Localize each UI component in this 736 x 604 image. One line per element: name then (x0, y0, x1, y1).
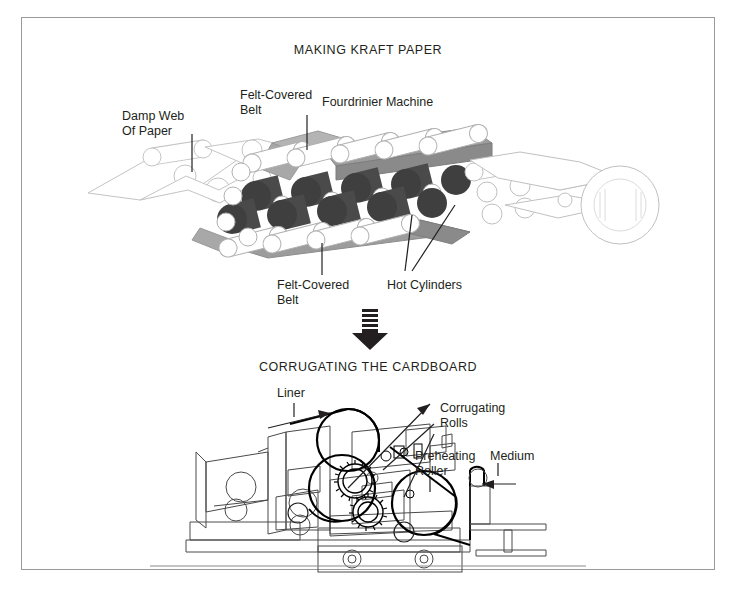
machine-frame (186, 424, 470, 552)
label-medium: Medium (490, 449, 534, 463)
take-up-roll (581, 166, 659, 244)
label-corrugating-line2: Rolls (440, 416, 468, 430)
corrugating-rolls (309, 409, 379, 521)
kraft-paper-machine-illustration: Damp Web Of Paper Felt-Covered Belt Four… (88, 88, 659, 307)
label-preheating-line1: Preheating (415, 449, 476, 463)
exit-table (469, 469, 546, 556)
diagram-page: MAKING KRAFT PAPER (0, 0, 736, 604)
top-section-title: MAKING KRAFT PAPER (294, 43, 442, 57)
label-preheating-line2: Roller (415, 464, 448, 478)
medium-feed-arrow (482, 480, 516, 489)
label-fourdrinier-machine: Fourdrinier Machine (322, 95, 433, 109)
corrugator-machine-illustration: Liner Corrugating Rolls Preheating Rolle… (150, 386, 586, 572)
guide-rollers (288, 503, 414, 542)
bottom-section-title: CORRUGATING THE CARDBOARD (259, 360, 477, 374)
label-felt-top-line1: Felt-Covered (240, 88, 312, 102)
label-felt-bottom-line1: Felt-Covered (277, 278, 349, 292)
label-damp-web-line1: Damp Web (122, 109, 184, 123)
down-arrow-icon (352, 309, 388, 350)
label-damp-web-line2: Of Paper (122, 124, 172, 138)
machine-base (318, 546, 462, 572)
diagram-canvas: MAKING KRAFT PAPER (0, 0, 736, 604)
label-corrugating-line1: Corrugating (440, 401, 505, 415)
label-hot-cylinders: Hot Cylinders (387, 278, 462, 292)
label-felt-bottom-line2: Belt (277, 293, 299, 307)
label-felt-top-line2: Belt (240, 103, 262, 117)
label-liner: Liner (277, 386, 305, 400)
preheating-roller (392, 471, 456, 535)
